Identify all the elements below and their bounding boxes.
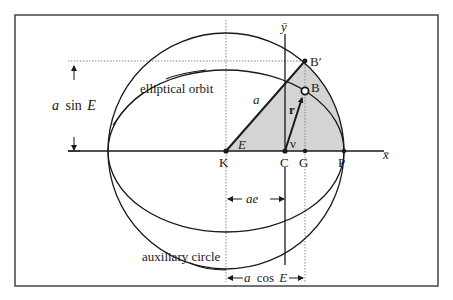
a-cos-e-a: a (244, 270, 251, 285)
a-sin-e-a: a (52, 98, 59, 113)
y-axis-label: ȳ (279, 19, 287, 34)
label-c: C (280, 155, 289, 170)
point-k (223, 148, 228, 153)
point-p (342, 149, 346, 153)
point-c (282, 148, 287, 153)
label-k: K (219, 155, 229, 170)
point-b-prime (303, 59, 308, 64)
a-sin-e-sin: sin (66, 98, 82, 113)
label-auxiliary-circle: auxiliary circle (142, 249, 221, 264)
label-true-anomaly: ν (290, 136, 296, 151)
label-elliptical-orbit: elliptical orbit (140, 81, 214, 96)
a-cos-e-e: E (278, 270, 287, 285)
label-p: P (338, 155, 345, 170)
label-a-cos-e: a cos E (244, 270, 287, 285)
label-b-prime: B′ (310, 54, 322, 69)
label-b: B (311, 80, 320, 95)
point-b (301, 87, 308, 94)
label-radius-vector: r (289, 102, 295, 117)
label-g: G (299, 155, 308, 170)
a-sin-e-e: E (86, 98, 96, 113)
label-semi-major-a: a (253, 92, 260, 107)
label-angle-e: E (237, 137, 246, 152)
a-cos-e-cos: cos (257, 270, 274, 285)
label-ae: ae (246, 191, 259, 206)
label-a-sin-e: a sin E (52, 98, 96, 113)
point-g (303, 149, 307, 153)
x-axis-label: x̄ (382, 147, 389, 162)
orbit-diagram: x̄ ȳ K C G P B′ B a E ν r elliptical orb… (0, 0, 453, 300)
